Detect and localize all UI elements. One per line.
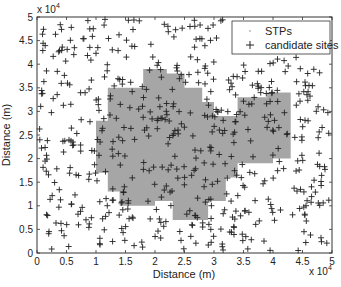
legend-candidate-sites: candidate sites (265, 39, 339, 51)
x-tick-label: 2 (152, 256, 158, 267)
y-tick-label: 3.5 (19, 82, 33, 93)
y-axis-label: Distance (m) (0, 104, 12, 166)
y-tick-label: 2.5 (19, 130, 33, 141)
y-tick-label: 1.5 (19, 177, 33, 188)
x-tick-label: 1.5 (119, 256, 133, 267)
x-tick-label: 4 (270, 256, 276, 267)
stp-region (96, 69, 291, 220)
stp-region-fill (96, 69, 291, 220)
y-tick-label: 0.5 (19, 224, 33, 235)
y-tick-label: 3 (27, 106, 33, 117)
x-tick-label: 3 (211, 256, 217, 267)
x-tick-label: 0.5 (60, 256, 74, 267)
legend-stps: STPs (265, 25, 292, 37)
y-tick-label: 0 (27, 248, 33, 259)
y-tick-label: 5 (27, 12, 33, 23)
x-tick-label: 1 (93, 256, 99, 267)
y-exponent: x 104 (37, 2, 60, 15)
x-exponent: x 104 (309, 264, 332, 277)
x-axis-label: Distance (m) (153, 268, 215, 280)
y-tick-label: 4 (27, 59, 33, 70)
y-tick-label: 1 (27, 200, 33, 211)
stp-marker-icon (249, 30, 251, 32)
x-tick-label: 0 (34, 256, 40, 267)
x-tick-label: 4.5 (296, 256, 310, 267)
x-tick-label: 2.5 (178, 256, 192, 267)
scatter-chart: 00.511.522.533.544.5500.511.522.533.544.… (0, 0, 341, 287)
y-tick-label: 4.5 (19, 35, 33, 46)
legend: STPs candidate sites (232, 21, 339, 54)
x-tick-label: 3.5 (237, 256, 251, 267)
y-tick-label: 2 (27, 153, 33, 164)
